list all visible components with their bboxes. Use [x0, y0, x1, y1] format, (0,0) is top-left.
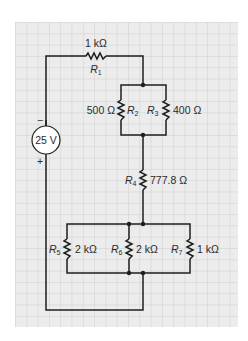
minus-sign: −: [37, 114, 43, 126]
junction-dot: [141, 222, 145, 226]
r2-value: 500 Ω: [87, 104, 115, 116]
r6-value: 2 kΩ: [136, 243, 158, 255]
r3-value: 400 Ω: [173, 104, 201, 116]
junction-dot: [141, 271, 145, 275]
junction-dot: [141, 83, 145, 87]
plus-sign: +: [37, 155, 43, 167]
circuit-diagram: 25 V − + 1 kΩ R1 500 Ω R2 R3 400 Ω R4 77…: [0, 0, 248, 341]
junction-dot: [141, 133, 145, 137]
r1-value: 1 kΩ: [85, 37, 107, 49]
junction-dot: [127, 271, 131, 275]
voltage-source-label: 25 V: [35, 134, 57, 146]
junction-dot: [127, 222, 131, 226]
r4-value: 777.8 Ω: [150, 174, 187, 186]
r7-value: 1 kΩ: [197, 243, 219, 255]
r5-value: 2 kΩ: [75, 243, 97, 255]
